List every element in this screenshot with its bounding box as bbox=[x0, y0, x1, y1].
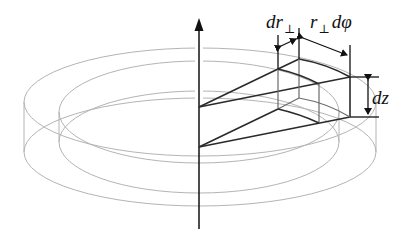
volume-element-diagram: dr⊥ r⊥dφ dz bbox=[0, 0, 406, 243]
r-dphi-label: r⊥dφ bbox=[310, 11, 352, 36]
diagram-canvas: dr⊥ r⊥dφ dz bbox=[0, 0, 406, 243]
z-axis-arrow-icon bbox=[195, 18, 204, 31]
outer-bottom-ellipse bbox=[24, 98, 376, 206]
dr-label: dr⊥ bbox=[266, 11, 295, 36]
dz-label: dz bbox=[372, 87, 390, 108]
